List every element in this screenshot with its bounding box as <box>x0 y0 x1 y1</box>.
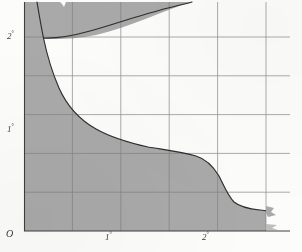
scan-artifact-right-2 <box>266 224 278 230</box>
axis-label-y-2-suffix: ° <box>12 30 14 36</box>
axis-label-y-1-suffix: ° <box>12 123 14 129</box>
figure-container: O 1° 2° 1° 2° <box>0 0 302 252</box>
axis-label-x-2-suffix: ° <box>207 231 209 237</box>
scan-artifacts-right <box>266 206 278 230</box>
axis-label-y-2: 2° <box>7 30 14 41</box>
axis-label-y-1: 1° <box>7 123 14 134</box>
scan-artifact-right-1 <box>266 206 276 217</box>
axis-label-x-1: 1° <box>105 231 112 242</box>
axis-label-origin: O <box>6 228 13 239</box>
axis-label-x-2: 2° <box>202 231 209 242</box>
axis-label-x-1-suffix: ° <box>110 231 112 237</box>
shaded-region-upper-wedge <box>24 2 192 39</box>
plot-svg <box>0 0 302 252</box>
